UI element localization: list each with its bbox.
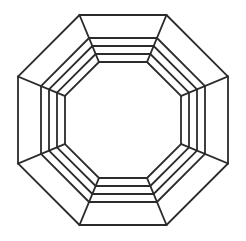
figure-background [0, 0, 246, 241]
nested-octagons-drawing [0, 0, 246, 241]
figure-root [0, 0, 246, 241]
